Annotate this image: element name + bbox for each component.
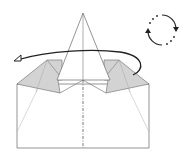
rotate-symbol-icon (145, 15, 179, 45)
origami-diagram (0, 0, 190, 160)
center-pointed-flap (57, 13, 110, 80)
